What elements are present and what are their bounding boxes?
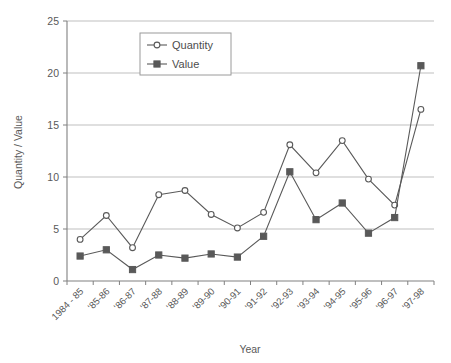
legend-label-value: Value (172, 58, 199, 70)
data-point (77, 253, 83, 259)
data-point (313, 217, 319, 223)
chart-legend: QuantityValue (140, 33, 231, 75)
y-tick-label: 10 (47, 171, 59, 183)
y-tick-label: 20 (47, 67, 59, 79)
chart-container: 0510152025 1984 - 85'85-86'86-87'87-88'8… (0, 0, 451, 363)
data-point (208, 251, 214, 257)
data-point (129, 266, 135, 272)
data-point (182, 188, 188, 194)
data-point (418, 63, 424, 69)
x-axis-title: Year (239, 343, 261, 355)
data-point (156, 252, 162, 258)
data-point (77, 237, 83, 243)
data-point (103, 247, 109, 253)
data-point (261, 233, 267, 239)
data-point (365, 230, 371, 236)
data-point (366, 176, 372, 182)
data-point (287, 169, 293, 175)
data-point (339, 138, 345, 144)
legend-marker-quantity (154, 42, 160, 48)
legend-label-quantity: Quantity (172, 39, 213, 51)
y-tick-label: 25 (47, 15, 59, 27)
data-point (234, 225, 240, 231)
y-tick-label: 5 (53, 223, 59, 235)
data-point (339, 200, 345, 206)
data-point (261, 209, 267, 215)
data-point (103, 213, 109, 219)
line-chart: 0510152025 1984 - 85'85-86'86-87'87-88'8… (0, 0, 451, 363)
data-point (130, 245, 136, 251)
data-point (182, 255, 188, 261)
y-tick-label: 0 (53, 275, 59, 287)
data-point (208, 212, 214, 218)
data-point (156, 192, 162, 198)
y-axis-title: Quantity / Value (12, 115, 24, 189)
legend-marker-value (154, 61, 160, 67)
data-point (234, 254, 240, 260)
y-tick-label: 15 (47, 119, 59, 131)
data-point (392, 214, 398, 220)
data-point (313, 170, 319, 176)
data-point (418, 107, 424, 113)
data-point (287, 142, 293, 148)
